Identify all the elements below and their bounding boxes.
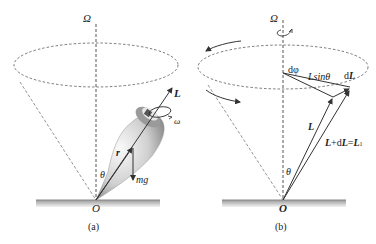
omega-axis-label: Ω xyxy=(83,12,91,24)
theta-label: θ xyxy=(100,169,105,180)
omega-axis-label: Ω xyxy=(270,12,278,24)
dL-label: dL xyxy=(344,70,355,81)
omega-spin-label: ω xyxy=(174,116,180,126)
cone-line xyxy=(208,85,283,200)
caption-b: (b) xyxy=(275,221,287,233)
theta-label: θ xyxy=(286,166,291,177)
precession-direction-arrow-bottom xyxy=(206,90,240,102)
L-label: L xyxy=(307,121,314,132)
gyroscope-precession-diagram: Ω L ω r mg θ O (a) xyxy=(0,0,376,244)
panel-b: Ω dφ Lsinθ dL L L+dL=L1 θ O (b) xyxy=(198,12,368,233)
origin-label: O xyxy=(92,202,100,214)
precession-direction-arrow-top xyxy=(206,41,241,51)
Lsintheta-label: Lsinθ xyxy=(307,71,330,82)
origin-label: O xyxy=(279,202,287,214)
dphi-label: dφ xyxy=(288,64,299,75)
cone-line xyxy=(20,82,96,200)
precession-rotation-icon xyxy=(277,30,291,36)
L-label: L xyxy=(173,87,181,99)
caption-a: (a) xyxy=(88,221,99,233)
mg-label: mg xyxy=(136,174,148,185)
panel-a: Ω L ω r mg θ O (a) xyxy=(14,12,181,233)
L-vector xyxy=(283,99,332,200)
sum-label: L+dL=L1 xyxy=(324,137,363,148)
r-label: r xyxy=(116,147,120,158)
